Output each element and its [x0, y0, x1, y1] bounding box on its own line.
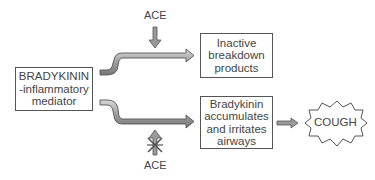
bradykinin-source-box: BRADYKININ -inflammatory mediator — [15, 67, 93, 111]
cough-label: COUGH — [314, 116, 357, 128]
source-line-1: BRADYKININ — [19, 70, 89, 83]
bottom-result-line-3: and irritates — [206, 123, 266, 136]
bottom-result-line-4: airways — [217, 135, 256, 148]
source-line-2: -inflammatory — [19, 83, 89, 96]
ace-top-label: ACE — [144, 9, 167, 21]
bradykinin-accumulates-box: Bradykinin accumulates and irritates air… — [200, 96, 273, 149]
lower-pathway-arrow-icon — [100, 100, 194, 128]
source-line-3: mediator — [32, 95, 77, 108]
inactive-products-box: Inactive breakdown products — [200, 33, 273, 78]
ace-bottom-label: ACE — [144, 159, 167, 171]
top-result-line-2: breakdown — [208, 49, 264, 62]
upper-pathway-arrow-icon — [100, 49, 194, 75]
top-result-line-3: products — [214, 62, 258, 75]
bottom-result-line-2: accumulates — [204, 110, 269, 123]
to-cough-arrow-icon — [277, 118, 298, 128]
bottom-result-line-1: Bradykinin — [210, 98, 264, 111]
ace-active-arrow-icon — [149, 27, 161, 48]
top-result-line-1: Inactive — [217, 37, 257, 50]
ace-inhibited-arrow-icon — [147, 130, 163, 155]
